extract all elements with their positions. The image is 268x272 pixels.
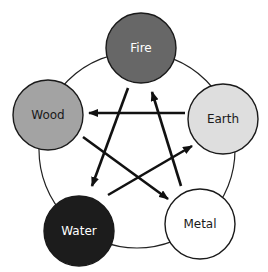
node-wood: Wood [13,80,83,150]
node-metal: Metal [165,189,235,259]
node-earth: Earth [188,84,258,154]
water-label: Water [61,224,97,238]
arrow-fire-to-water [92,88,128,186]
metal-label: Metal [183,217,216,231]
arrow-metal-to-fire [152,92,181,186]
arrow-water-to-earth [108,146,192,195]
fire-label: Fire [130,41,151,55]
nodes-layer: FireWoodEarthWaterMetal [13,13,258,266]
five-elements-diagram: FireWoodEarthWaterMetal [0,0,268,272]
node-fire: Fire [106,13,176,83]
node-water: Water [44,196,114,266]
arrows-layer [83,88,192,199]
wood-label: Wood [31,108,64,122]
earth-label: Earth [207,112,239,126]
